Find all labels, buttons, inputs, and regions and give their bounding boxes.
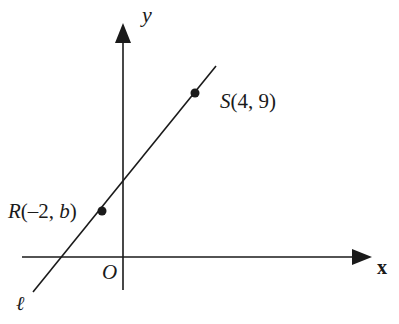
point-s-label: S(4, 9) [220, 89, 276, 113]
x-axis-label: x [377, 256, 387, 278]
line-l-label: ℓ [16, 292, 25, 314]
point-r-coords-close: ) [70, 199, 77, 223]
y-axis-label: y [140, 2, 152, 27]
point-r-coords-open: (–2, [21, 199, 60, 223]
point-r [98, 207, 107, 216]
x-axis [22, 249, 372, 265]
point-s-coords: (4, 9) [231, 89, 277, 113]
point-s-name: S [220, 89, 231, 113]
line-l [33, 66, 216, 292]
y-axis-arrowhead-icon [115, 23, 131, 43]
point-r-label: R(–2, b) [7, 199, 77, 223]
coordinate-diagram: y x O ℓ S(4, 9) R(–2, b) [0, 0, 399, 324]
point-r-name: R [7, 199, 21, 223]
y-axis [115, 23, 131, 290]
x-axis-arrowhead-icon [352, 249, 372, 265]
point-s [191, 89, 200, 98]
point-r-coords-var: b [59, 199, 70, 223]
origin-label: O [102, 260, 117, 284]
